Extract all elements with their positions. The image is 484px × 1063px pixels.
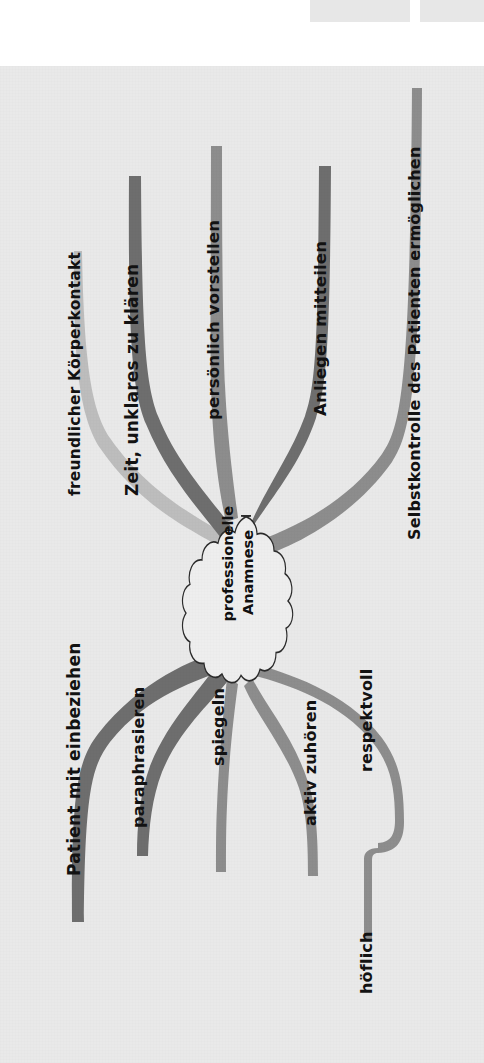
label-paraphrasieren: paraphrasieren <box>129 687 148 828</box>
top-block-right <box>420 0 484 22</box>
label-aktiv-zuhoeren: aktiv zuhören <box>301 700 320 826</box>
mindmap-sheet: freundlicher Körperkontakt Zeit, unklare… <box>0 66 484 1063</box>
top-block-left <box>310 0 410 22</box>
branch-hoeflich <box>364 848 378 940</box>
label-zeit-unklares-zu-klaeren: Zeit, unklares zu klären <box>122 264 142 496</box>
label-anliegen-mitteilen: Anliegen mitteilen <box>311 241 330 416</box>
label-spiegeln: spiegeln <box>209 688 228 766</box>
center-label-line1: professionelle <box>219 524 239 622</box>
label-hoeflich: höflich <box>357 931 376 994</box>
label-freundlicher-koerperkontakt: freundlicher Körperkontakt <box>66 252 84 496</box>
label-respektvoll: respektvoll <box>357 669 376 772</box>
center-label-line2: Anamnese <box>239 524 259 622</box>
branch-respektvoll <box>248 662 404 853</box>
center-label: professionelle Anamnese <box>219 524 258 622</box>
label-selbstkontrolle-des-patienten-ermoeglichen: Selbstkontrolle des Patienten ermögliche… <box>405 147 424 540</box>
label-persoenlich-vorstellen: persönlich vorstellen <box>204 220 223 420</box>
label-patient-mit-einbeziehen: Patient mit einbeziehen <box>64 643 84 876</box>
figure-page: freundlicher Körperkontakt Zeit, unklare… <box>0 0 484 1063</box>
